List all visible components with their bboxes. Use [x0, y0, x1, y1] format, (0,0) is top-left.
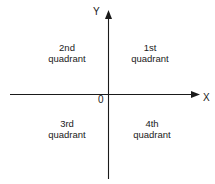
y-axis-arrowhead	[105, 10, 112, 19]
quadrant-diagram: Y X 0 2nd quadrant 1st quadrant 3rd quad…	[0, 0, 215, 184]
quadrant-word: quadrant	[107, 129, 197, 140]
quadrant-ordinal: 3rd	[22, 118, 112, 129]
origin-label: 0	[98, 95, 104, 105]
quadrant-ordinal: 2nd	[22, 42, 112, 53]
quadrant-label-first: 1st quadrant	[105, 42, 195, 64]
quadrant-word: quadrant	[22, 53, 112, 64]
quadrant-word: quadrant	[105, 53, 195, 64]
quadrant-label-second: 2nd quadrant	[22, 42, 112, 64]
quadrant-label-fourth: 4th quadrant	[107, 118, 197, 140]
quadrant-word: quadrant	[22, 129, 112, 140]
y-axis-label: Y	[93, 7, 100, 17]
axes-graphic	[0, 0, 215, 184]
quadrant-ordinal: 4th	[107, 118, 197, 129]
x-axis-arrowhead	[191, 91, 200, 98]
quadrant-label-third: 3rd quadrant	[22, 118, 112, 140]
x-axis-label: X	[203, 93, 210, 103]
quadrant-ordinal: 1st	[105, 42, 195, 53]
